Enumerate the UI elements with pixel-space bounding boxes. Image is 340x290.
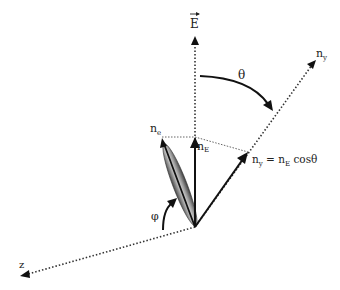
n-y-projection-vector [195,152,248,227]
theta-arc [200,76,273,111]
phi-arc [163,198,177,230]
theta-label: θ [238,68,245,82]
e-field-label: E [190,12,200,31]
n-y-axis-label: ny [316,47,327,62]
phi-label: φ [151,210,159,223]
n-E-label: nE [197,140,209,154]
z-axis-label: z [19,259,24,270]
polarization-diagram: E ny z ne nE ny = nE cosθ [0,0,340,290]
svg-text:E: E [190,17,199,31]
n-e-label: ne [150,122,161,137]
z-axis [20,227,195,278]
projection-formula: ny = nE cosθ [252,153,317,168]
